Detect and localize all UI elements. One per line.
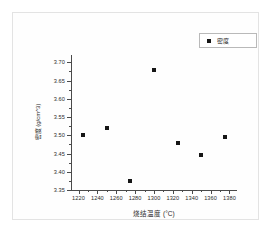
x-tick <box>173 190 174 194</box>
x-tick-label: 1380 <box>223 195 236 201</box>
x-tick-minor <box>107 190 108 192</box>
y-tick-label: 3.35 <box>54 187 65 193</box>
y-tick-minor <box>69 144 71 145</box>
y-tick <box>67 154 71 155</box>
x-tick-label: 1260 <box>110 195 123 201</box>
y-tick-minor <box>69 163 71 164</box>
x-tick-label: 1360 <box>204 195 217 201</box>
x-tick-minor <box>220 190 221 192</box>
x-tick <box>229 190 230 194</box>
data-point <box>81 133 85 137</box>
y-tick-minor <box>69 90 71 91</box>
legend-label: 密度 <box>217 36 229 45</box>
x-tick <box>154 190 155 194</box>
x-tick <box>135 190 136 194</box>
y-tick <box>67 172 71 173</box>
x-tick-minor <box>145 190 146 192</box>
y-axis-title: 密度 (g/cm^3) <box>33 104 42 141</box>
y-tick-label: 3.65 <box>54 78 65 84</box>
x-tick-label: 1280 <box>129 195 142 201</box>
y-axis-line <box>71 55 72 190</box>
x-tick-label: 1300 <box>148 195 161 201</box>
y-tick <box>67 135 71 136</box>
data-point <box>152 68 156 72</box>
y-tick-minor <box>69 181 71 182</box>
x-tick-minor <box>182 190 183 192</box>
y-tick <box>67 62 71 63</box>
x-tick-minor <box>88 190 89 192</box>
y-tick <box>67 81 71 82</box>
x-tick <box>97 190 98 194</box>
x-tick <box>192 190 193 194</box>
y-tick-minor <box>69 126 71 127</box>
x-tick-label: 1240 <box>91 195 104 201</box>
y-tick-label: 3.50 <box>54 132 65 138</box>
y-tick-label: 3.60 <box>54 96 65 102</box>
figure-frame: 3.353.403.453.503.553.603.653.70 1220124… <box>12 12 259 220</box>
y-tick <box>67 117 71 118</box>
y-tick-label: 3.70 <box>54 59 65 65</box>
data-point <box>128 179 132 183</box>
legend-box: 密度 <box>199 33 257 48</box>
y-tick-label: 3.45 <box>54 151 65 157</box>
y-tick-minor <box>69 71 71 72</box>
y-tick-label: 3.55 <box>54 114 65 120</box>
data-point <box>223 135 227 139</box>
x-tick <box>211 190 212 194</box>
x-tick-label: 1320 <box>166 195 179 201</box>
data-point <box>176 141 180 145</box>
data-point <box>199 153 203 157</box>
y-tick <box>67 99 71 100</box>
y-tick <box>67 190 71 191</box>
x-tick-label: 1340 <box>185 195 198 201</box>
x-tick-minor <box>126 190 127 192</box>
plot-area: 3.353.403.453.503.553.603.653.70 1220124… <box>71 55 237 190</box>
x-tick <box>79 190 80 194</box>
x-tick-minor <box>163 190 164 192</box>
data-point <box>105 126 109 130</box>
figure-root: 3.353.403.453.503.553.603.653.70 1220124… <box>0 0 272 235</box>
x-tick-label: 1220 <box>72 195 85 201</box>
y-tick-minor <box>69 108 71 109</box>
legend-marker-icon <box>207 39 211 43</box>
x-tick-minor <box>201 190 202 192</box>
x-tick <box>116 190 117 194</box>
y-tick-label: 3.40 <box>54 169 65 175</box>
x-axis-title: 烧结温度 (°C) <box>133 208 174 218</box>
